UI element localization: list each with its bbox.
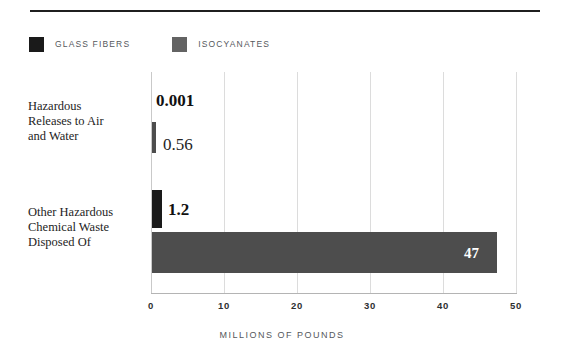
gridline-50 — [516, 72, 517, 294]
category-label-releases-line3: and Water — [28, 129, 144, 144]
x-tick-50: 50 — [510, 300, 522, 311]
bar-glass-fibers-waste[interactable] — [151, 190, 162, 228]
legend-swatch-glass-fibers — [29, 37, 44, 52]
plot-area: 47 — [151, 72, 516, 294]
header-rule — [30, 10, 540, 12]
legend-item-isocyanates[interactable]: ISOCYANATES — [172, 37, 270, 52]
chart-legend: GLASS FIBERS ISOCYANATES — [29, 36, 312, 52]
legend-label-glass-fibers: GLASS FIBERS — [55, 39, 130, 49]
x-tick-40: 40 — [437, 300, 449, 311]
category-label-releases: Hazardous Releases to Air and Water — [28, 99, 144, 144]
value-label-isocyanates-waste: 47 — [464, 246, 479, 261]
x-tick-10: 10 — [218, 300, 230, 311]
category-label-waste: Other Hazardous Chemical Waste Disposed … — [28, 205, 144, 250]
legend-label-isocyanates: ISOCYANATES — [198, 39, 270, 49]
category-label-waste-line2: Chemical Waste — [28, 220, 144, 235]
legend-item-glass-fibers[interactable]: GLASS FIBERS — [29, 37, 130, 52]
x-tick-20: 20 — [291, 300, 303, 311]
value-label-glass-fibers-waste: 1.2 — [168, 201, 189, 218]
x-axis-line — [151, 293, 517, 294]
legend-swatch-isocyanates — [172, 37, 187, 52]
category-label-releases-line1: Hazardous — [28, 99, 144, 114]
value-label-glass-fibers-releases: 0.001 — [156, 92, 194, 109]
x-tick-30: 30 — [364, 300, 376, 311]
y-axis-line — [151, 72, 152, 294]
category-label-releases-line2: Releases to Air — [28, 114, 144, 129]
bar-isocyanates-waste[interactable] — [151, 232, 497, 273]
value-label-isocyanates-releases: 0.56 — [163, 136, 193, 153]
x-tick-0: 0 — [148, 300, 154, 311]
category-label-waste-line3: Disposed Of — [28, 235, 144, 250]
x-axis-title: MILLIONS OF POUNDS — [0, 330, 564, 340]
category-label-waste-line1: Other Hazardous — [28, 205, 144, 220]
